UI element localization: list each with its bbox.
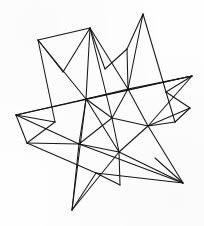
edge-spike-mid-upper-to-spike-top-right (127, 14, 143, 49)
edge-core-b-to-core-c (128, 89, 148, 126)
edge-spike-mid-upper-to-core-b (127, 49, 128, 89)
edge-spike-left-to-core-k (16, 115, 55, 122)
edge-core-a-to-core-e (79, 99, 86, 144)
edge-spike-left-lower-to-core-j (27, 143, 96, 173)
edge-core-c-to-core-l (112, 118, 148, 126)
edge-core-e-to-core-l (79, 118, 112, 144)
polyhedron-figure-canvas: Small Stellated Dodecahedron (0, 0, 204, 226)
edge-spike-bottom-center-to-core-d (119, 152, 120, 185)
edge-spike-mid-upper-to-core-f (105, 49, 127, 69)
edge-spike-top-right-to-core-h (143, 14, 166, 92)
stellated-polyhedron-drawing: Small Stellated Dodecahedron (0, 0, 204, 226)
edge-spike-left-lower-to-core-k (27, 122, 55, 143)
edge-spike-right-lower-to-spike-mid-right (175, 108, 190, 122)
edge-core-d-to-core-e (79, 144, 119, 152)
edge-spike-left-lower-to-core-e (27, 143, 79, 144)
edge-spike-bottom-right-to-core-i (155, 158, 183, 183)
edge-core-c-to-core-d (119, 126, 148, 152)
edge-spike-top-left-to-core-g (63, 28, 90, 72)
edge-spike-top-left-to-core-b (90, 28, 128, 89)
edge-spike-upper-left-to-spike-top-left (38, 28, 90, 40)
edge-spike-top-right-to-core-b (128, 14, 143, 89)
polyhedron-edge-group (16, 14, 192, 210)
edge-spike-upper-left-to-core-a (38, 40, 86, 99)
edge-spike-top-left-to-core-a (86, 28, 90, 99)
